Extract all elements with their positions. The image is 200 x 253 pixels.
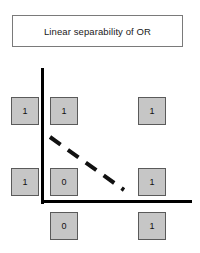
- figure-title-text: Linear separability of OR: [44, 26, 151, 37]
- cell-point-1-1: 1: [138, 97, 166, 125]
- cell-x-label-right: 1: [138, 212, 166, 240]
- cell-label: 1: [149, 178, 154, 187]
- cell-label: 0: [61, 178, 66, 187]
- x-axis-line: [41, 200, 192, 203]
- cell-label: 1: [149, 222, 154, 231]
- figure-title-box: Linear separability of OR: [12, 15, 183, 47]
- cell-point-0-0: 0: [50, 168, 78, 196]
- linear-separability-figure: Linear separability of OR 11110101: [0, 0, 200, 253]
- cell-label: 1: [61, 107, 66, 116]
- cell-label: 0: [61, 222, 66, 231]
- cell-label: 1: [149, 107, 154, 116]
- cell-label: 1: [22, 178, 27, 187]
- cell-label: 1: [22, 107, 27, 116]
- cell-y-label-bottom: 1: [11, 168, 39, 196]
- cell-x-label-left: 0: [50, 212, 78, 240]
- cell-point-0-1: 1: [50, 97, 78, 125]
- cell-point-1-0: 1: [138, 168, 166, 196]
- cell-y-label-top: 1: [11, 97, 39, 125]
- y-axis-line: [41, 68, 44, 204]
